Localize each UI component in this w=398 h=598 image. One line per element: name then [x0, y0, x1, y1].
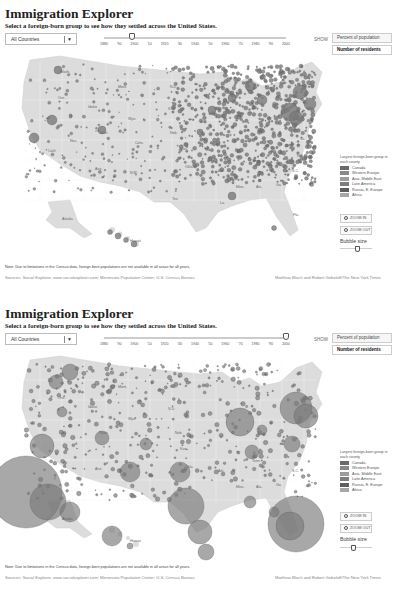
slider-thumb[interactable] — [283, 333, 289, 340]
year-label[interactable]: '30 — [177, 342, 182, 346]
state-label: La. — [220, 201, 225, 205]
slider-thumb[interactable] — [351, 545, 356, 551]
legend: Largest foreign-born group in each count… — [340, 450, 396, 493]
year-label[interactable]: 1920 — [161, 42, 169, 46]
page-title: Immigration Explorer — [5, 6, 133, 22]
legend-swatch — [340, 488, 349, 492]
zoom-in-button[interactable]: ZOOM IN — [340, 512, 372, 521]
year-label[interactable]: 1980 — [252, 42, 260, 46]
number-of-residents-toggle[interactable]: Number of residents — [332, 345, 392, 355]
year-label[interactable]: '10 — [147, 342, 152, 346]
zoom-out-label: ZOOM OUT — [350, 228, 370, 232]
year-label[interactable]: '10 — [147, 42, 152, 46]
year-slider[interactable]: 1880'901900'101920'301940'501960'701980'… — [100, 333, 290, 349]
state-label: S.D. — [168, 407, 175, 411]
legend-swatch — [340, 466, 349, 470]
state-label: N.C. — [297, 154, 304, 158]
year-label[interactable]: '30 — [177, 42, 182, 46]
country-select[interactable]: All Countries ▼ — [5, 333, 77, 345]
legend-swatch — [340, 193, 349, 197]
credit: Matthew Bloch and Robert Gebeloff/The Ne… — [275, 575, 381, 580]
state-label: Kan. — [180, 147, 187, 151]
state-label: Ariz. — [95, 167, 102, 171]
state-label: Ala. — [256, 485, 262, 489]
legend: Largest foreign-born group in each count… — [340, 155, 396, 198]
state-label: Tex. — [172, 197, 179, 201]
year-label[interactable]: '90 — [117, 342, 122, 346]
legend-swatch — [340, 483, 349, 487]
sources: Sources: Social Explorer, www.socialexpl… — [5, 275, 205, 281]
state-label: N.M. — [130, 171, 138, 175]
magnifier-icon — [344, 514, 348, 518]
us-map[interactable]: Wash.Mont.Ore.IdahoN.D.Wyo.S.D.Nev.UtahC… — [0, 52, 330, 262]
year-label[interactable]: '70 — [238, 42, 243, 46]
state-label: Hawaii — [130, 539, 141, 543]
year-label[interactable]: 1940 — [191, 42, 199, 46]
state-label: N.D. — [170, 385, 177, 389]
year-label[interactable]: '90 — [268, 42, 273, 46]
year-label[interactable]: 1980 — [252, 342, 260, 346]
magnifier-icon — [344, 526, 348, 530]
slider-track — [104, 337, 286, 339]
legend-swatch — [340, 166, 349, 170]
legend-label: Canada — [352, 166, 365, 170]
state-label: Wyo. — [128, 417, 136, 421]
state-label: Miss. — [236, 485, 244, 489]
state-label: Ore. — [58, 96, 65, 100]
state-label: Ga. — [276, 183, 282, 187]
country-select[interactable]: All Countries ▼ — [5, 33, 77, 45]
legend-label: Western Europe — [352, 466, 379, 470]
zoom-out-button[interactable]: ZOOM OUT — [340, 524, 372, 533]
year-label[interactable]: '90 — [117, 42, 122, 46]
legend-label: Canada — [352, 461, 365, 465]
year-label[interactable]: 1960 — [221, 42, 229, 46]
year-label[interactable]: 1900 — [130, 42, 138, 46]
state-label: Ala. — [256, 185, 262, 189]
state-label: S.C. — [292, 169, 299, 173]
state-label: N.D. — [170, 85, 177, 89]
state-label: Va. — [300, 137, 305, 141]
year-label[interactable]: 2000 — [282, 342, 290, 346]
state-label: Alaska — [62, 517, 73, 521]
percent-of-population-toggle[interactable]: Percent of population — [332, 333, 392, 343]
zoom-out-button[interactable]: ZOOM OUT — [340, 226, 372, 235]
state-label: S.C. — [292, 469, 299, 473]
year-label[interactable]: 1900 — [130, 342, 138, 346]
zoom-in-button[interactable]: ZOOM IN — [340, 214, 372, 223]
year-label[interactable]: '50 — [208, 342, 213, 346]
year-label[interactable]: 1880 — [100, 342, 108, 346]
percent-of-population-toggle[interactable]: Percent of population — [332, 33, 392, 43]
year-label[interactable]: 1940 — [191, 342, 199, 346]
year-slider[interactable]: 1880'901900'101920'301940'501960'701980'… — [100, 33, 290, 49]
legend-label: Russia, E. Europe — [352, 188, 383, 192]
year-label[interactable]: '90 — [268, 342, 273, 346]
number-of-residents-toggle[interactable]: Number of residents — [332, 45, 392, 55]
year-label[interactable]: 2000 — [282, 42, 290, 46]
select-divider — [64, 336, 65, 343]
bubble-size-label: Bubble size — [340, 536, 367, 542]
year-label[interactable]: '70 — [238, 342, 243, 346]
slider-thumb[interactable] — [355, 246, 360, 252]
us-map[interactable]: Mont.N.D.Ore.IdahoS.D.Wyo.UtahNeb.Ariz.K… — [0, 352, 330, 562]
state-label: Nev. — [70, 139, 77, 143]
magnifier-icon — [344, 216, 348, 220]
state-label: Hawaii — [130, 239, 141, 243]
legend-label: Asia, Middle East — [352, 472, 381, 476]
state-label: Okla. — [185, 165, 193, 169]
immigration-explorer-panel-1900: Immigration Explorer Select a foreign-bo… — [0, 0, 398, 298]
country-select-value: All Countries — [11, 336, 39, 342]
legend-label: Western Europe — [352, 171, 379, 175]
page-subtitle: Select a foreign-born group to see how t… — [5, 22, 217, 29]
year-label[interactable]: 1920 — [161, 342, 169, 346]
year-label[interactable]: '50 — [208, 42, 213, 46]
chevron-down-icon: ▼ — [67, 34, 72, 44]
state-label: Mont. — [118, 85, 127, 89]
state-label: Idaho — [88, 405, 97, 409]
state-label: Wyo. — [128, 117, 136, 121]
bubble-size-slider[interactable] — [340, 545, 372, 551]
year-label[interactable]: 1880 — [100, 42, 108, 46]
state-label: Colo. — [135, 141, 143, 145]
legend-items: CanadaWestern EuropeAsia, Middle EastLat… — [340, 165, 396, 198]
bubble-size-slider[interactable] — [340, 246, 372, 252]
year-label[interactable]: 1960 — [221, 342, 229, 346]
